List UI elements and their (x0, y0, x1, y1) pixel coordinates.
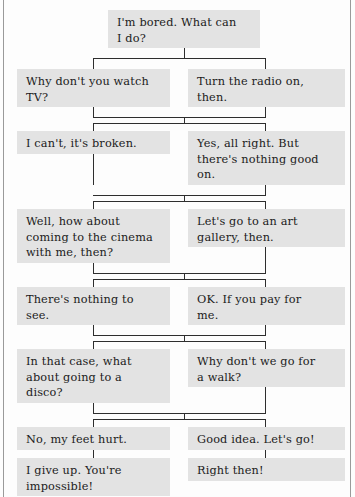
connector-r5-split-bar (93, 341, 265, 342)
node-row7-right: Right then! (188, 458, 345, 481)
node-row2-right: Yes, all right. But there's nothing good… (188, 131, 345, 185)
connector-r3-right-riser (265, 247, 266, 274)
connector-r5-merge-bar (93, 413, 265, 414)
node-row7-left: I give up. You're impossible! (17, 458, 170, 496)
node-row5-left: In that case, what about going to a disc… (17, 349, 170, 403)
connector-root-drop-right (265, 58, 266, 69)
connector-r2-merge-bar (93, 195, 265, 196)
connector-r6-split-bar (93, 419, 265, 420)
node-row3-right: Let's go to an art gallery, then. (188, 209, 345, 247)
node-row4-right: OK. If you pay for me. (188, 287, 345, 325)
connector-r4-split-bar (93, 279, 265, 280)
node-row4-left: There's nothing to see. (17, 287, 170, 325)
connector-r3-merge-bar (93, 273, 265, 274)
connector-root-bar (93, 58, 265, 59)
connector-r4-right-riser (265, 325, 266, 336)
connector-r1-right-riser (265, 107, 266, 118)
node-row6-left: No, my feet hurt. (17, 427, 170, 450)
connector-r2-left-riser (93, 154, 94, 185)
node-row1-left: Why don't you watch TV? (17, 69, 170, 107)
node-row5-right: Why don't we go for a walk? (188, 349, 345, 387)
node-row6-right: Good idea. Let's go! (188, 427, 345, 450)
node-root: I'm bored. What can I do? (108, 10, 260, 48)
connector-r3-split-bar (93, 201, 265, 202)
connector-r2-right-riser (265, 185, 266, 196)
connector-r5-right-riser (265, 387, 266, 414)
connector-r1-merge-bar (93, 117, 265, 118)
connector-root-drop-left (93, 58, 94, 69)
node-row1-right: Turn the radio on, then. (188, 69, 345, 107)
node-row2-left: I can't, it's broken. (17, 131, 170, 154)
node-row3-left: Well, how about coming to the cinema wit… (17, 209, 170, 263)
dialogue-flowchart: I'm bored. What can I do? Why don't you … (0, 0, 355, 497)
connector-r2-split-bar (93, 123, 265, 124)
flowchart-page: I'm bored. What can I do? Why don't you … (0, 0, 355, 497)
connector-r4-merge-bar (93, 335, 265, 336)
